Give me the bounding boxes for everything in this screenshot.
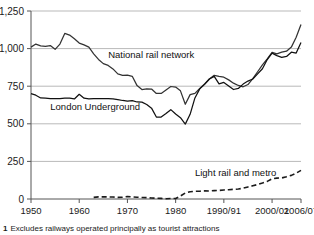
annotation-light-rail-and-metro: Light rail and metro: [195, 167, 276, 178]
x-tick-label-1990/91: 1990/91: [207, 205, 241, 216]
x-tick-label-2006/07: 2006/07: [284, 205, 314, 216]
footnote-label: Excludes railways operated principally a…: [10, 224, 219, 233]
series-annotations: National rail networkLondon UndergroundL…: [50, 49, 276, 178]
series-line-national-rail-network: [31, 25, 301, 105]
chart-container: 02505007501,0001,250 1950196019701980199…: [0, 0, 314, 235]
x-tick-label-1960: 1960: [69, 205, 90, 216]
y-axis: 02505007501,0001,250: [0, 6, 31, 205]
y-tick-label-1250: 1,250: [0, 6, 24, 17]
y-tick-label-500: 500: [7, 118, 24, 129]
y-tick-label-250: 250: [7, 156, 24, 167]
annotation-london-underground: London Underground: [50, 101, 140, 112]
x-tick-label-1970: 1970: [117, 205, 138, 216]
x-tick-label-1980: 1980: [165, 205, 186, 216]
footnote: 1Excludes railways operated principally …: [3, 224, 219, 234]
rail-passenger-journeys-line-chart: 02505007501,0001,250 1950196019701980199…: [0, 0, 314, 235]
y-tick-label-750: 750: [7, 81, 24, 92]
y-tick-label-1000: 1,000: [0, 43, 24, 54]
x-axis: 19501960197019801990/912000/012006/07: [20, 199, 314, 216]
x-tick-label-1950: 1950: [20, 205, 41, 216]
footnote-marker: 1: [3, 224, 7, 233]
annotation-national-rail-network: National rail network: [108, 49, 194, 60]
y-tick-label-0: 0: [18, 194, 24, 205]
